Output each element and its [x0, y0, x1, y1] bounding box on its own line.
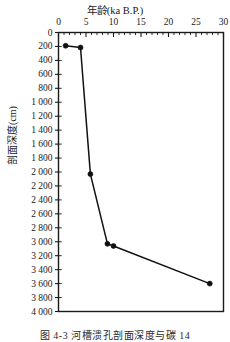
y-axis-title: 剖面深度(cm): [4, 81, 19, 191]
y-axis-ticks: [55, 33, 62, 312]
data-series-points: [63, 43, 212, 286]
y-tick-label: 2 400: [31, 195, 52, 205]
y-tick-label: 1 400: [31, 125, 52, 135]
y-tick-label: 3 800: [31, 293, 52, 303]
y-tick-label: 3 600: [31, 279, 52, 289]
data-point: [78, 45, 83, 50]
y-tick-label: 1 800: [31, 153, 52, 163]
y-tick-label: 1 600: [31, 139, 52, 149]
x-tick-label: 30: [219, 17, 229, 27]
y-tick-label: 1 200: [31, 111, 52, 121]
data-series-line: [66, 46, 210, 284]
x-axis-title: 年龄(ka B.P.): [0, 2, 230, 17]
x-tick-label: 20: [164, 17, 174, 27]
figure-caption: 图 4-3 河槽溃孔剖面深度与碳 14: [0, 327, 230, 342]
y-tick-label: 400: [38, 55, 52, 65]
x-tick-label: 0: [56, 17, 61, 27]
y-tick-label: 600: [38, 69, 52, 79]
x-tick-label: 5: [84, 17, 89, 27]
data-point: [63, 43, 68, 48]
y-tick-label: 200: [38, 41, 52, 51]
y-tick-label: 2 600: [31, 209, 52, 219]
data-point: [105, 241, 110, 246]
y-tick-label: 0: [48, 28, 53, 38]
x-tick-label: 10: [109, 17, 119, 27]
y-tick-label: 800: [38, 83, 52, 93]
y-tick-label: 1 000: [31, 97, 52, 107]
data-point: [111, 243, 116, 248]
y-tick-label: 2 200: [31, 181, 52, 191]
y-tick-label: 3 200: [31, 251, 52, 261]
y-tick-label: 2 000: [31, 167, 52, 177]
x-tick-label: 15: [136, 17, 146, 27]
figure-container: 年龄(ka B.P.) 剖面深度(cm) 051015202530 020040…: [0, 0, 230, 342]
y-tick-label: 3 400: [31, 265, 52, 275]
y-tick-label: 2 800: [31, 223, 52, 233]
data-point: [207, 281, 212, 286]
data-point: [88, 172, 93, 177]
x-tick-label: 25: [191, 17, 201, 27]
y-tick-label: 3 000: [31, 237, 52, 247]
y-tick-label: 4 000: [31, 307, 52, 317]
